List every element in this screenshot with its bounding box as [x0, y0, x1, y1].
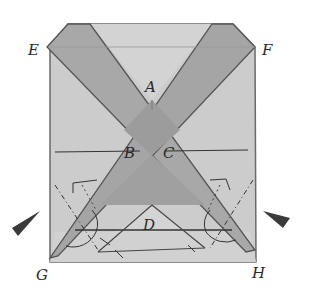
origami-diagram: E F A B C D G H: [0, 0, 311, 291]
label-c: C: [163, 144, 175, 162]
label-d: D: [142, 216, 155, 234]
bottom-strip: [50, 232, 256, 262]
label-b: B: [123, 144, 135, 162]
label-g: G: [36, 266, 48, 284]
label-h: H: [251, 264, 266, 282]
label-e: E: [27, 41, 39, 59]
right-arrow-icon: [263, 211, 290, 228]
label-f: F: [261, 41, 273, 59]
left-arrow-icon: [12, 211, 40, 236]
label-a: A: [143, 78, 156, 96]
